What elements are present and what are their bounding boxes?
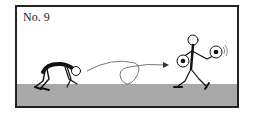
loop-arrow-icon (87, 61, 167, 84)
diagram-panel: No. 9 (15, 5, 239, 108)
illustration (17, 7, 237, 106)
crouching-figure-icon (35, 64, 81, 90)
